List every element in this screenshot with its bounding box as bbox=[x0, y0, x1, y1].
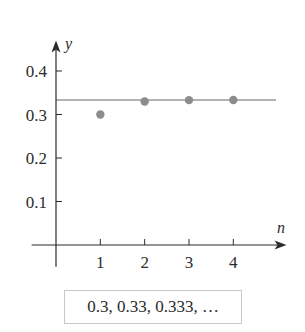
y-tick-label: 0.3 bbox=[26, 106, 47, 125]
y-tick-label: 0.4 bbox=[26, 62, 48, 81]
data-point bbox=[96, 110, 104, 118]
y-tick-label: 0.2 bbox=[26, 149, 47, 168]
sequence-caption: 0.3, 0.33, 0.333, … bbox=[87, 297, 219, 317]
chart: 12340.10.20.30.4 y n bbox=[0, 0, 305, 332]
x-tick-label: 4 bbox=[229, 253, 238, 272]
x-tick-label: 1 bbox=[96, 253, 105, 272]
data-point bbox=[140, 97, 148, 105]
x-tick-label: 2 bbox=[140, 253, 149, 272]
y-tick-label: 0.1 bbox=[26, 193, 47, 212]
x-tick-label: 3 bbox=[185, 253, 194, 272]
sequence-caption-box: 0.3, 0.33, 0.333, … bbox=[64, 290, 242, 324]
y-axis-label: y bbox=[63, 35, 73, 53]
x-axis-label: n bbox=[277, 219, 285, 236]
data-point bbox=[229, 96, 237, 104]
data-point bbox=[185, 96, 193, 104]
